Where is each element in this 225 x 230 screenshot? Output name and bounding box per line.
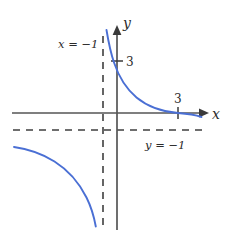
y-tick-label-3: 3 xyxy=(126,55,134,69)
horizontal-asymptote-label: y = −1 xyxy=(144,138,185,152)
x-tick-label-3: 3 xyxy=(174,92,182,106)
rational-function-graph: y x 3 3 x = −1 y = −1 xyxy=(0,0,225,230)
x-axis-label: x xyxy=(212,106,220,122)
y-axis-label: y xyxy=(122,15,132,31)
vertical-asymptote-label: x = −1 xyxy=(58,37,98,51)
